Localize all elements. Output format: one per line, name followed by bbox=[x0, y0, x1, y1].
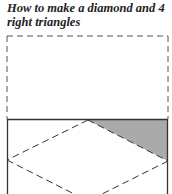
diamond-diagram bbox=[0, 0, 172, 194]
dashed-paper-outline bbox=[7, 36, 168, 119]
